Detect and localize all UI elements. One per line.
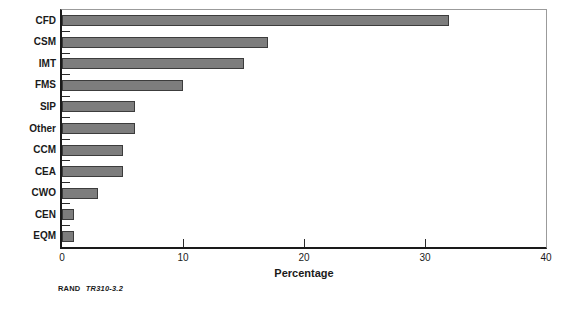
category-label-ccm: CCM — [0, 143, 56, 157]
bar-other — [62, 123, 135, 134]
category-label-cfd: CFD — [0, 14, 56, 28]
bar-fms — [62, 80, 183, 91]
plot-area — [60, 9, 547, 249]
bar-cea — [62, 166, 123, 177]
y-axis-minor-tick — [62, 74, 70, 75]
y-axis-minor-tick — [62, 203, 70, 204]
bar-ccm — [62, 145, 123, 156]
figure-caption: RAND TR310-3.2 — [58, 284, 123, 293]
bar-csm — [62, 37, 268, 48]
category-label-cea: CEA — [0, 165, 56, 179]
y-axis-minor-tick — [62, 96, 70, 97]
bar-chart-figure: CFDCSMIMTFMSSIPOtherCCMCEACWOCENEQM 0102… — [0, 0, 577, 310]
bar-eqm — [62, 231, 74, 242]
category-label-cwo: CWO — [0, 186, 56, 200]
y-axis-minor-tick — [62, 117, 70, 118]
category-label-fms: FMS — [0, 78, 56, 92]
y-axis-minor-tick — [62, 160, 70, 161]
category-label-cen: CEN — [0, 208, 56, 222]
y-axis-minor-tick — [62, 182, 70, 183]
bar-cfd — [62, 15, 449, 26]
bar-sip — [62, 101, 135, 112]
category-label-other: Other — [0, 122, 56, 136]
category-label-eqm: EQM — [0, 229, 56, 243]
x-tick-label-30: 30 — [419, 252, 430, 264]
x-tick-label-20: 20 — [298, 252, 309, 264]
x-axis-tick — [304, 239, 305, 247]
x-tick-label-40: 40 — [540, 252, 551, 264]
category-label-csm: CSM — [0, 35, 56, 49]
y-axis-minor-tick — [62, 53, 70, 54]
x-tick-label-0: 0 — [59, 252, 65, 264]
y-axis-minor-tick — [62, 31, 70, 32]
x-tick-label-10: 10 — [177, 252, 188, 264]
caption-publisher: RAND — [58, 284, 80, 293]
caption-figure-number: TR310-3.2 — [86, 284, 123, 293]
x-axis-title: Percentage — [274, 267, 333, 279]
bar-imt — [62, 58, 244, 69]
bar-cwo — [62, 188, 98, 199]
y-axis-minor-tick — [62, 139, 70, 140]
x-axis-tick — [425, 239, 426, 247]
x-axis-tick — [183, 239, 184, 247]
y-axis-minor-tick — [62, 225, 70, 226]
bar-cen — [62, 209, 74, 220]
category-label-imt: IMT — [0, 57, 56, 71]
category-label-sip: SIP — [0, 100, 56, 114]
